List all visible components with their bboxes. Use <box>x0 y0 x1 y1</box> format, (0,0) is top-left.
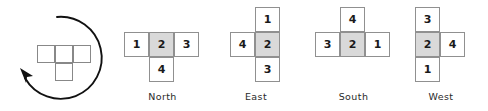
tshape-cell <box>55 63 73 81</box>
grid-cell: 2 <box>149 32 174 57</box>
grid-cell: 2 <box>415 32 440 57</box>
grid-cell: 1 <box>255 7 280 32</box>
grid-cell: 4 <box>440 32 465 57</box>
grid-cell: 4 <box>230 32 255 57</box>
orientation-east: 1 4 2 3 East <box>230 0 282 111</box>
tshape-cell <box>55 45 73 63</box>
grid-cell: 4 <box>340 7 365 32</box>
grid-cell: 1 <box>124 32 149 57</box>
grid-cell: 1 <box>415 57 440 82</box>
orientation-south: 4 3 2 1 South <box>315 0 392 111</box>
orientation-label-east: East <box>230 91 282 102</box>
orientation-west: 3 2 4 1 West <box>415 0 467 111</box>
grid-cell: 3 <box>174 32 199 57</box>
grid-cell: 2 <box>255 32 280 57</box>
orientation-north: 1 2 3 4 North <box>124 0 201 111</box>
orientation-label-west: West <box>415 91 467 102</box>
tshape-cell <box>73 45 91 63</box>
grid-cell: 3 <box>415 7 440 32</box>
grid-cell: 1 <box>365 32 390 57</box>
orientation-label-north: North <box>124 91 201 102</box>
grid-cell: 3 <box>255 57 280 82</box>
tshape-cell <box>37 45 55 63</box>
rotation-figure: 1 2 3 4 North 1 4 2 3 East 4 3 2 1 South… <box>0 0 488 111</box>
grid-cell: 3 <box>315 32 340 57</box>
rotation-arrow-panel <box>0 0 118 111</box>
orientation-label-south: South <box>315 91 392 102</box>
grid-cell: 4 <box>149 57 174 82</box>
grid-cell: 2 <box>340 32 365 57</box>
